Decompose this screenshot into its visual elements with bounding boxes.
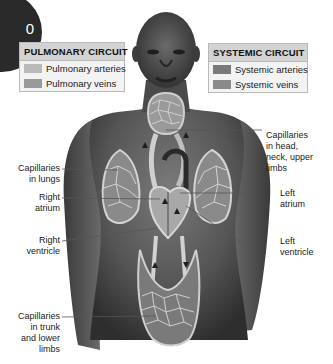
label-capillaries-in-trunk-and-lower-limbs: Capillaries in trunk and lower limbs: [4, 311, 60, 355]
label-right-ventricle: Right ventricle: [4, 235, 60, 257]
legend-item-systemic-veins: Systemic veins: [209, 77, 307, 92]
label-left-ventricle: Left ventricle: [280, 236, 330, 258]
circulatory-diagram: 0: [0, 0, 333, 364]
pulmonary-legend-title: PULMONARY CIRCUIT: [20, 43, 124, 61]
label-capillaries-in-head-neck-upper-limbs: Capillaries in head, neck, upper limbs: [266, 130, 332, 174]
systemic-legend-title: SYSTEMIC CIRCUIT: [209, 44, 307, 62]
label-capillaries-in-lungs: Capillaries in lungs: [4, 163, 60, 185]
legend-item-pulmonary-arteries: Pulmonary arteries: [20, 61, 124, 76]
systemic-veins-swatch: [213, 80, 231, 89]
systemic-circuit-legend: SYSTEMIC CIRCUIT Systemic arteries Syste…: [208, 43, 308, 93]
legend-item-pulmonary-veins: Pulmonary veins: [20, 76, 124, 91]
systemic-arteries-swatch: [213, 65, 231, 74]
label-right-atrium: Right atrium: [4, 192, 60, 214]
pulmonary-veins-swatch: [24, 79, 42, 88]
legend-item-systemic-arteries: Systemic arteries: [209, 62, 307, 77]
label-left-atrium: Left atrium: [280, 188, 330, 210]
head: [136, 12, 196, 88]
pulmonary-arteries-swatch: [24, 64, 42, 73]
pulmonary-circuit-legend: PULMONARY CIRCUIT Pulmonary arteries Pul…: [19, 42, 125, 92]
